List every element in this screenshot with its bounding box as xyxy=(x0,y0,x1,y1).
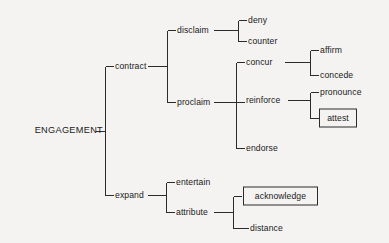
node-acknowledge-box: acknowledge xyxy=(243,187,318,206)
node-attest-box: attest xyxy=(319,109,357,128)
node-entertain: entertain xyxy=(176,178,210,187)
node-attest: attest xyxy=(327,114,349,123)
node-endorse: endorse xyxy=(246,144,278,153)
node-engagement: ENGAGEMENT xyxy=(35,126,103,135)
node-distance: distance xyxy=(250,224,283,233)
engagement-tree-diagram: ENGAGEMENT contract expand disclaim proc… xyxy=(0,0,389,243)
node-counter: counter xyxy=(248,37,277,46)
node-reinforce: reinforce xyxy=(246,96,280,105)
node-contract: contract xyxy=(115,62,146,71)
node-concur: concur xyxy=(246,58,272,67)
node-deny: deny xyxy=(248,16,267,25)
node-affirm: affirm xyxy=(320,46,342,55)
node-concede: concede xyxy=(320,71,353,80)
node-attribute: attribute xyxy=(176,208,208,217)
node-proclaim: proclaim xyxy=(177,98,210,107)
node-disclaim: disclaim xyxy=(177,26,209,35)
node-pronounce: pronounce xyxy=(320,88,362,97)
node-acknowledge: acknowledge xyxy=(255,192,306,201)
node-expand: expand xyxy=(115,191,144,200)
